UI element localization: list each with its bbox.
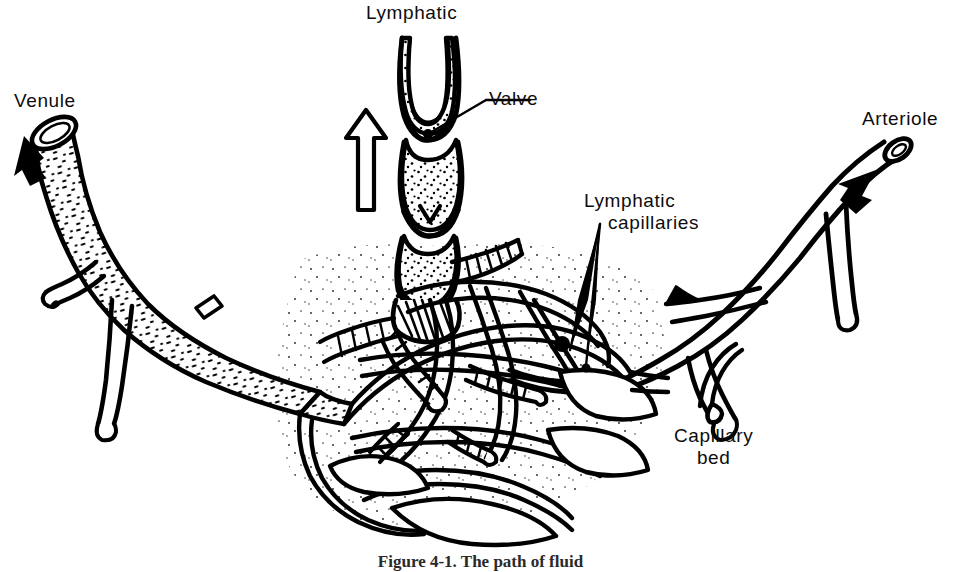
label-lymphatic: Lymphatic (366, 2, 457, 24)
label-lymphatic-capillaries: Lymphatic capillaries (584, 190, 699, 235)
label-valve: Valve (489, 88, 538, 110)
label-lymphatic-capillaries-line1: Lymphatic (584, 190, 675, 211)
label-capillary-bed-line1: Capillary (674, 425, 753, 446)
label-capillary-bed-line2: bed (674, 447, 753, 469)
label-venule: Venule (14, 90, 76, 112)
label-capillary-bed: Capillary bed (674, 425, 753, 470)
lymphatic-flow-arrow (346, 110, 386, 210)
label-arteriole: Arteriole (862, 108, 938, 130)
figure-caption: Figure 4-1. The path of fluid (0, 552, 961, 572)
label-lymphatic-capillaries-line2: capillaries (584, 212, 699, 234)
